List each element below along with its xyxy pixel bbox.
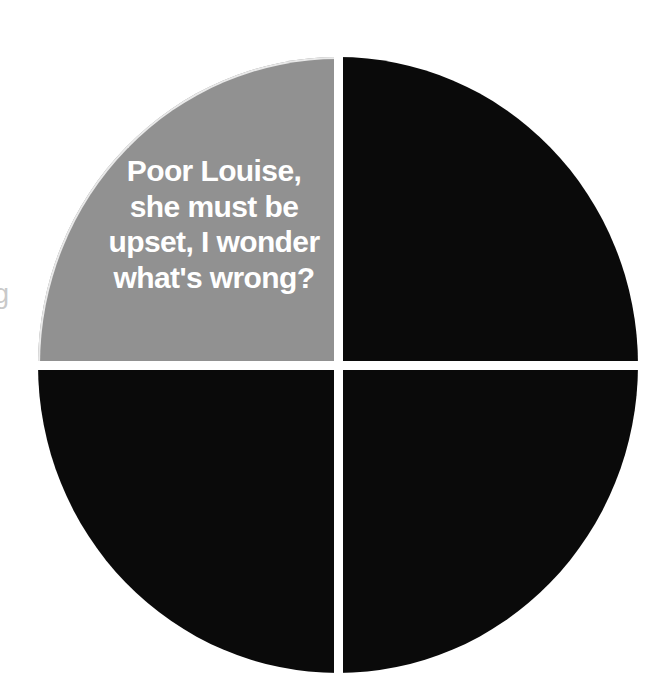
quadrant-circle-diagram: Poor Louise, she must be upset, I wonder… [38, 57, 638, 673]
quadrant-bottom-left[interactable] [38, 365, 338, 673]
clipped-margin-glyph: g [0, 281, 9, 308]
horizontal-divider [36, 361, 640, 370]
quadrant-top-right[interactable] [338, 57, 638, 365]
quadrant-bottom-right[interactable] [338, 365, 638, 673]
page-canvas: g Poor Louise, she must be upset, I wond… [0, 0, 670, 695]
quadrant-caption-text: Poor Louise, she must be upset, I wonder… [90, 153, 338, 295]
